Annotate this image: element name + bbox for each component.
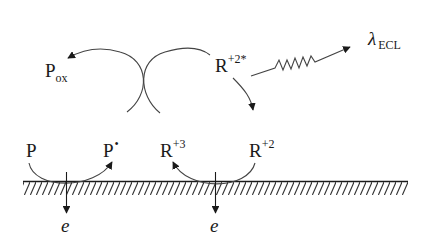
label-lambda-ecl: λECL: [367, 28, 401, 52]
label-p: P: [26, 140, 37, 161]
label-r3: R+3: [160, 137, 185, 161]
label-r2: R+2: [249, 137, 274, 161]
label-p-ox: Pox: [45, 60, 68, 85]
label-electron-right: e: [210, 215, 218, 236]
r2excited-to-r2-arrow: [233, 78, 253, 110]
r3-to-r2excited-arc: [144, 48, 210, 113]
emission-wavy-arrow: [251, 47, 350, 76]
label-p-radical: P•: [103, 137, 119, 161]
pradical-to-pox-arrow: [68, 49, 143, 112]
label-r2-excited: R+2*: [215, 52, 246, 76]
r2-to-r3-arrow: [173, 162, 255, 184]
label-electron-left: e: [61, 215, 69, 236]
p-to-pradical-arrow: [29, 162, 112, 183]
ecl-mechanism-diagram: Pox P P• R+3 R+2 R+2* λECL e e: [0, 0, 430, 243]
diagram-canvas: Pox P P• R+3 R+2 R+2* λECL e e: [0, 0, 430, 243]
